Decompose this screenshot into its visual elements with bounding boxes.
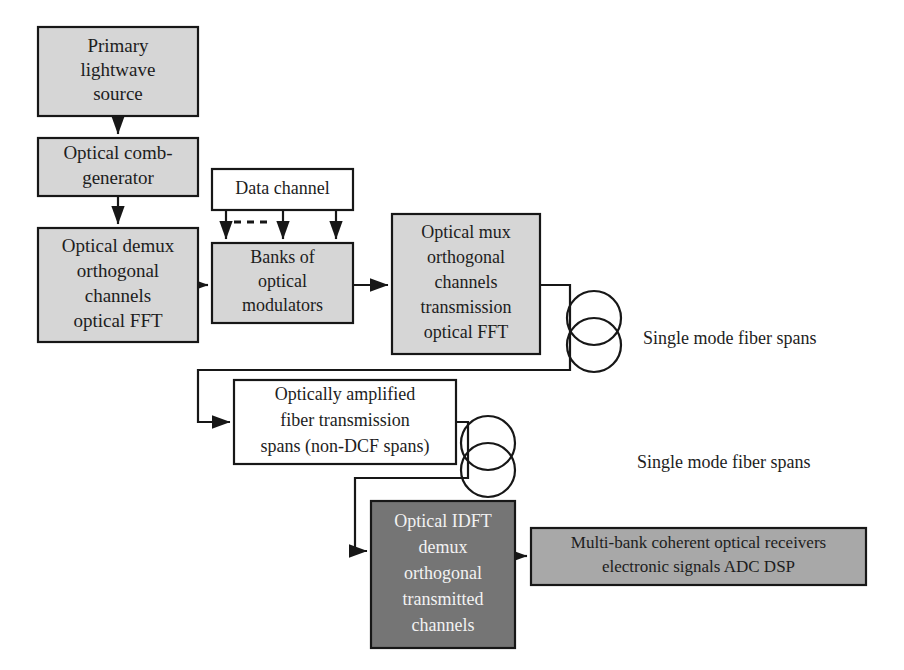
- optical-idft-demux-box: Optical IDFTdemuxorthogonaltransmittedch…: [371, 501, 515, 648]
- optically-amplified-fiber-transmission-box: Optically amplifiedfiber transmissionspa…: [234, 380, 456, 464]
- primary-lightwave-source-box: Primarylightwavesource: [38, 27, 198, 116]
- optically-amplified-fiber-transmission-box-line-2: fiber transmission: [280, 410, 409, 430]
- optical-idft-demux-box-line-4: transmitted: [403, 589, 484, 609]
- optically-amplified-fiber-transmission-box-line-1: Optically amplified: [275, 384, 415, 404]
- optical-demux-box-line-1: Optical demux: [62, 235, 175, 256]
- multi-bank-coherent-optical-receivers-box-line-2: electronic signals ADC DSP: [602, 557, 795, 576]
- optical-mux-box-line-1: Optical mux: [421, 222, 510, 242]
- optical-mux-box-line-3: channels: [435, 272, 498, 292]
- diagram-canvas: PrimarylightwavesourceOptical comb-gener…: [0, 0, 904, 670]
- primary-lightwave-source-box-line-1: Primary: [87, 35, 149, 56]
- banks-of-optical-modulators-box-line-3: modulators: [242, 295, 323, 315]
- optically-amplified-fiber-transmission-box-line-3: spans (non-DCF spans): [261, 436, 430, 457]
- single-mode-fiber-spans-label-top: Single mode fiber spans: [643, 328, 816, 348]
- optical-idft-demux-box-line-5: channels: [412, 615, 475, 635]
- optical-idft-demux-box-line-3: orthogonal: [404, 563, 482, 583]
- optical-comb-generator-box-line-1: Optical comb-: [63, 142, 172, 163]
- optical-comb-generator-box-line-2: generator: [82, 167, 154, 188]
- multi-bank-coherent-optical-receivers-box: Multi-bank coherent optical receiversele…: [531, 528, 866, 585]
- data-channel-box-line-1: Data channel: [235, 178, 329, 198]
- single-mode-fiber-spans-label-bottom: Single mode fiber spans: [637, 452, 810, 472]
- optical-demux-box-line-4: optical FFT: [73, 310, 163, 331]
- primary-lightwave-source-box-line-3: source: [93, 83, 143, 104]
- banks-of-optical-modulators-box-line-1: Banks of: [250, 247, 315, 267]
- optical-demux-box-line-3: channels: [85, 285, 151, 306]
- banks-of-optical-modulators-box: Banks ofopticalmodulators: [212, 243, 353, 323]
- optical-mux-box: Optical muxorthogonalchannelstransmissio…: [392, 214, 540, 354]
- banks-of-optical-modulators-box-line-2: optical: [258, 271, 307, 291]
- multi-bank-coherent-optical-receivers-box-line-1: Multi-bank coherent optical receivers: [571, 533, 826, 552]
- primary-lightwave-source-box-line-2: lightwave: [81, 59, 156, 80]
- optical-ofdm-system-diagram: PrimarylightwavesourceOptical comb-gener…: [0, 0, 904, 670]
- data-channel-box: Data channel: [212, 169, 353, 210]
- optical-idft-demux-box-line-1: Optical IDFT: [394, 511, 491, 531]
- optical-demux-box-line-2: orthogonal: [77, 260, 159, 281]
- optical-demux-box: Optical demuxorthogonalchannelsoptical F…: [38, 228, 198, 342]
- optical-mux-box-line-5: optical FFT: [424, 322, 509, 342]
- optical-mux-box-line-4: transmission: [420, 297, 511, 317]
- optical-comb-generator-box: Optical comb-generator: [38, 138, 198, 196]
- optical-mux-box-line-2: orthogonal: [427, 247, 505, 267]
- optical-idft-demux-box-line-2: demux: [419, 537, 468, 557]
